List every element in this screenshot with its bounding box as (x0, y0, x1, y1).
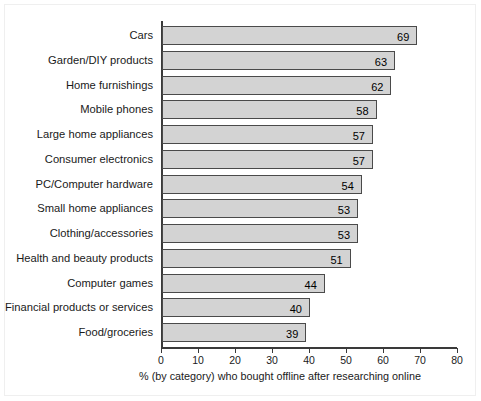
bar-value-label: 63 (375, 54, 394, 71)
category-label: Health and beauty products (16, 249, 153, 268)
x-tick-label: 50 (326, 353, 366, 367)
category-label: PC/Computer hardware (35, 175, 153, 194)
x-axis-ticks: 01020304050607080 (161, 348, 459, 370)
bar: 51 (162, 249, 351, 268)
bar-value-label: 51 (330, 252, 349, 269)
bar-chart-figure: CarsGarden/DIY productsHome furnishingsM… (0, 0, 481, 401)
plot-area: 69636258575754535351444039 (161, 21, 457, 348)
category-label: Mobile phones (80, 100, 153, 119)
bar-value-label: 39 (286, 326, 305, 343)
bar-value-label: 62 (371, 79, 390, 96)
bar: 44 (162, 274, 325, 293)
x-tick-label: 40 (289, 353, 329, 367)
bar: 40 (162, 298, 310, 317)
x-tick-label: 10 (178, 353, 218, 367)
x-tick-label: 80 (437, 353, 477, 367)
bar: 53 (162, 199, 358, 218)
bar: 58 (162, 100, 377, 119)
x-tick-label: 20 (215, 353, 255, 367)
bar-value-label: 53 (338, 202, 357, 219)
bar: 39 (162, 323, 306, 342)
bar-value-label: 57 (353, 153, 372, 170)
bar: 63 (162, 51, 395, 70)
category-label: Food/groceries (78, 323, 153, 342)
bar: 69 (162, 26, 417, 45)
bar-value-label: 57 (353, 128, 372, 145)
bar-value-label: 54 (342, 178, 361, 195)
category-label: Home furnishings (66, 76, 153, 95)
category-label: Computer games (67, 274, 153, 293)
category-axis-labels: CarsGarden/DIY productsHome furnishingsM… (0, 26, 157, 348)
bar: 57 (162, 125, 373, 144)
bar: 53 (162, 224, 358, 243)
bar-value-label: 53 (338, 227, 357, 244)
bar: 54 (162, 175, 362, 194)
x-tick-label: 70 (400, 353, 440, 367)
x-axis-title: % (by category) who bought offline after… (100, 369, 460, 383)
bar-value-label: 40 (290, 301, 309, 318)
category-label: Cars (129, 26, 153, 45)
bar: 57 (162, 150, 373, 169)
category-label: Consumer electronics (45, 150, 153, 169)
category-label: Financial products or services (5, 298, 153, 317)
bar-value-label: 58 (356, 103, 375, 120)
category-label: Large home appliances (37, 125, 153, 144)
x-tick-label: 0 (141, 353, 181, 367)
bar: 62 (162, 76, 391, 95)
x-tick-label: 30 (252, 353, 292, 367)
x-tick-label: 60 (363, 353, 403, 367)
category-label: Clothing/accessories (50, 224, 153, 243)
category-label: Small home appliances (37, 199, 153, 218)
category-label: Garden/DIY products (48, 51, 153, 70)
bar-value-label: 69 (397, 29, 416, 46)
bar-value-label: 44 (305, 277, 324, 294)
